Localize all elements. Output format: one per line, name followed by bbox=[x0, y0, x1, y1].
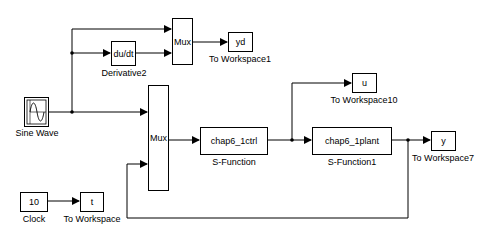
to-workspace7-label: To Workspace7 bbox=[412, 153, 474, 163]
t-text: t bbox=[91, 197, 94, 207]
to-workspace7-block[interactable]: y bbox=[431, 131, 456, 151]
derivative-text: du/dt bbox=[113, 49, 133, 59]
s-function-label: S-Function bbox=[212, 157, 256, 167]
junction-ctrl bbox=[290, 138, 294, 142]
derivative-label: Derivative2 bbox=[101, 68, 146, 78]
to-workspace-block[interactable]: t bbox=[80, 192, 104, 212]
diagram-canvas: Sine Wave du/dt Derivative2 Mux yd To Wo… bbox=[0, 0, 489, 236]
s-function-plant-block[interactable]: chap6_1plant bbox=[312, 127, 392, 155]
mux1-block[interactable]: Mux bbox=[172, 18, 193, 65]
mux1-text: Mux bbox=[174, 37, 191, 47]
plant-text: chap6_1plant bbox=[325, 136, 379, 146]
junction-plant bbox=[406, 138, 410, 142]
to-workspace10-block[interactable]: u bbox=[352, 73, 377, 93]
junction-deriv bbox=[70, 51, 74, 55]
sine-wave-icon bbox=[26, 99, 47, 125]
ctrl-text: chap6_1ctrl bbox=[211, 136, 258, 146]
mux2-block[interactable]: Mux bbox=[148, 85, 169, 191]
u-text: u bbox=[362, 78, 367, 88]
derivative-block[interactable]: du/dt bbox=[111, 41, 136, 66]
clock-block[interactable]: 10 bbox=[20, 192, 48, 212]
to-workspace1-block[interactable]: yd bbox=[228, 32, 253, 52]
sine-wave-label: Sine Wave bbox=[15, 128, 58, 138]
sine-wave-block[interactable] bbox=[24, 97, 49, 127]
s-function1-label: S-Function1 bbox=[328, 157, 377, 167]
junction-sine bbox=[70, 110, 74, 114]
to-workspace-label: To Workspace bbox=[64, 214, 121, 224]
to-workspace1-label: To Workspace1 bbox=[209, 54, 271, 64]
s-function-ctrl-block[interactable]: chap6_1ctrl bbox=[200, 127, 268, 155]
y-text: y bbox=[441, 136, 446, 146]
mux2-text: Mux bbox=[150, 133, 167, 143]
yd-text: yd bbox=[236, 37, 246, 47]
clock-text: 10 bbox=[29, 197, 39, 207]
to-workspace10-label: To Workspace10 bbox=[331, 95, 398, 105]
clock-label: Clock bbox=[23, 214, 46, 224]
